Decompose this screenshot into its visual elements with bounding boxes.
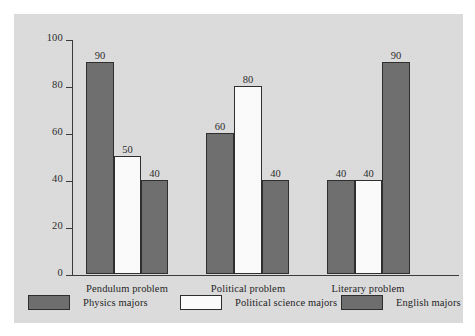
legend-swatch-icon: [28, 295, 70, 310]
legend-item-political-science-majors: Political science majors: [180, 292, 337, 312]
legend-label: Political science majors: [235, 297, 337, 308]
y-tick-label: 80: [52, 79, 63, 90]
bar-political-polisci: 80: [234, 86, 262, 274]
bar-literary-polisci: 40: [355, 180, 382, 274]
y-tick-label: 40: [52, 173, 63, 184]
plot-area: 100 80 60 40 20 0 Percentage di: [72, 40, 459, 275]
legend-item-physics-majors: Physics majors: [28, 292, 148, 312]
bar-literary-english: 90: [382, 62, 410, 274]
y-axis-line: [72, 40, 73, 276]
bar-value-label: 90: [95, 50, 106, 61]
y-tick-label: 60: [52, 126, 63, 137]
bar-value-label: 50: [122, 144, 133, 155]
y-tick-mark: [66, 275, 72, 276]
chart-legend: Physics majors Political science majors …: [14, 292, 463, 314]
legend-swatch-icon: [341, 295, 383, 310]
bar-value-label: 40: [149, 168, 160, 179]
y-tick-label: 20: [52, 220, 63, 231]
bar-value-label: 60: [215, 121, 226, 132]
x-axis-line: [72, 275, 459, 276]
bar-chart-figure: 100 80 60 40 20 0 Percentage di: [0, 0, 475, 336]
y-tick-mark: [66, 134, 72, 135]
bar-value-label: 40: [336, 168, 347, 179]
bar-value-label: 40: [270, 168, 281, 179]
bar-literary-physics: 40: [327, 180, 355, 274]
y-tick-mark: [66, 228, 72, 229]
legend-item-english-majors: English majors: [341, 292, 461, 312]
legend-label: Physics majors: [83, 297, 148, 308]
bar-value-label: 90: [391, 50, 402, 61]
bar-pendulum-physics: 90: [86, 62, 114, 274]
bar-value-label: 40: [363, 168, 374, 179]
bar-value-label: 80: [243, 74, 254, 85]
y-tick-label: 0: [58, 267, 63, 278]
bar-pendulum-polisci: 50: [114, 156, 141, 274]
bar-political-english: 40: [262, 180, 289, 274]
bar-pendulum-english: 40: [141, 180, 168, 274]
y-tick-mark: [66, 181, 72, 182]
y-tick-label: 100: [47, 32, 63, 43]
chart-panel: 100 80 60 40 20 0 Percentage di: [14, 14, 463, 323]
legend-swatch-icon: [180, 295, 222, 310]
legend-label: English majors: [396, 297, 461, 308]
y-tick-mark: [66, 87, 72, 88]
y-tick-mark: [66, 40, 72, 41]
bar-political-physics: 60: [206, 133, 234, 274]
